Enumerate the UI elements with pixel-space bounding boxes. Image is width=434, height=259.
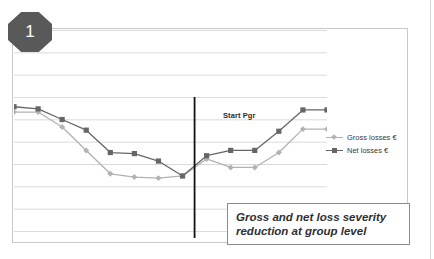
page-edge-rule: [430, 0, 431, 259]
start-pgr-label: Start Pgr: [223, 111, 256, 120]
slide-canvas: Start Pgr 1 Gross losses € Net losses € …: [0, 0, 434, 259]
caption-line-1: Gross and net loss severity: [236, 211, 386, 223]
legend-marker-diamond-icon: [326, 133, 343, 142]
legend-label-net-losses: Net losses €: [347, 146, 388, 155]
caption-line-2: reduction at group level: [236, 225, 366, 237]
series-net-losses: [14, 104, 327, 178]
chart-legend: Gross losses € Net losses €: [326, 131, 397, 157]
caption-callout: Gross and net loss severity reduction at…: [227, 203, 410, 245]
legend-item-gross-losses: Gross losses €: [326, 131, 397, 144]
badge-number: 1: [25, 22, 34, 42]
legend-label-gross-losses: Gross losses €: [347, 133, 397, 142]
legend-item-net-losses: Net losses €: [326, 144, 397, 157]
legend-marker-square-icon: [326, 146, 343, 155]
caption-text: Gross and net loss severity reduction at…: [236, 210, 386, 239]
